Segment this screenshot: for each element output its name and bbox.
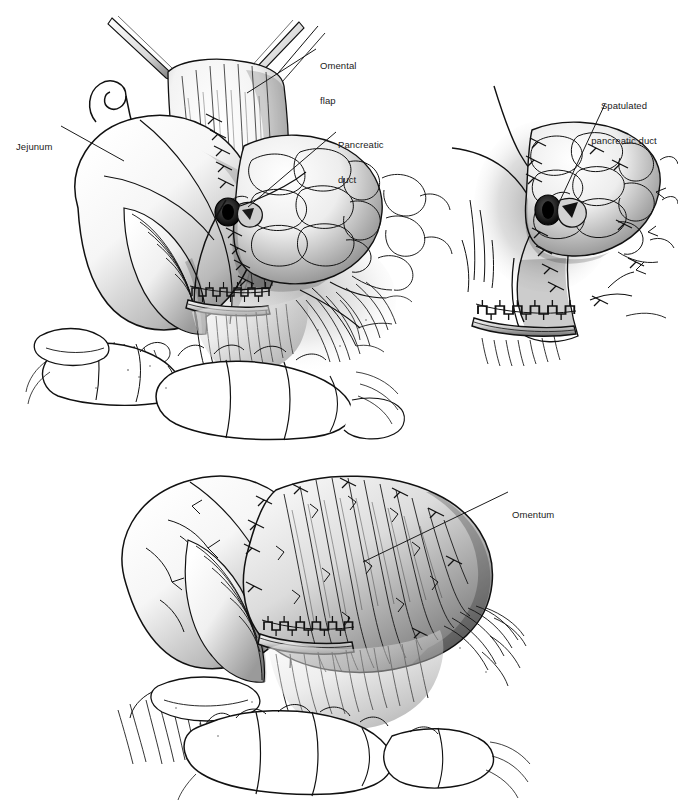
jejunum-label-line-1: Jejunum — [16, 141, 52, 153]
pancreatic-duct-label: Pancreatic duct — [338, 116, 384, 208]
pancreatic-duct-label-line-2: duct — [338, 174, 384, 186]
small-bowel-left-a — [34, 329, 109, 366]
pancreatic-duct-label-line-1: Pancreatic — [338, 139, 384, 151]
figure-root: Omental flap Pancreatic duct Jejunum Spa… — [0, 0, 678, 802]
spatulated-pancreatic-duct-label: Spatulated pancreatic duct — [578, 77, 670, 169]
omentum-label: Omentum — [512, 486, 554, 544]
jejunum-label: Jejunum — [16, 118, 52, 176]
omentum-label-line-1: Omentum — [512, 509, 554, 521]
spatulated-pancreatic-duct-label-line-2: pancreatic duct — [578, 135, 670, 147]
omental-flap-label-line-1: Omental — [320, 60, 356, 72]
spatulated-pancreatic-duct-label-line-1: Spatulated — [578, 100, 670, 112]
omental-flap-label-line-2: flap — [320, 95, 356, 107]
